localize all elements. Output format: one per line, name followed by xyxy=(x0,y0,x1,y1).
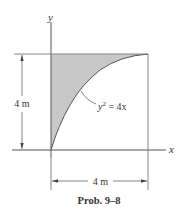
width-dimension-label: 4 m xyxy=(93,176,109,187)
height-arrow-bottom xyxy=(20,143,23,149)
equation-rhs: = 4x xyxy=(106,101,127,112)
figure-diagram: y x y2 = 4x 4 m 4 m Prob. 9–8 xyxy=(0,0,184,214)
width-arrow-right xyxy=(141,179,147,182)
equation-leader-line xyxy=(81,91,96,104)
y-axis-label: y xyxy=(47,11,53,23)
width-arrow-left xyxy=(52,179,58,182)
height-dimension-label: 4 m xyxy=(14,98,30,109)
x-axis-label: x xyxy=(168,143,174,155)
equation-label: y2 = 4x xyxy=(97,100,127,112)
figure-caption: Prob. 9–8 xyxy=(78,195,121,206)
height-arrow-top xyxy=(20,55,23,61)
